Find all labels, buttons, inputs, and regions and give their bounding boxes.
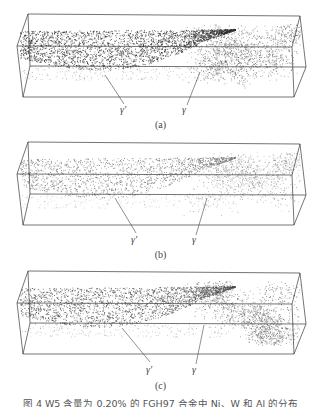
- gamma-label: γ: [182, 104, 186, 115]
- panel-b: γ′ γ (b): [0, 128, 321, 257]
- panel-a: γ′ γ (a): [0, 0, 321, 128]
- gamma-label: γ: [192, 234, 196, 245]
- panel-c: γ′ γ (c): [0, 257, 321, 394]
- atom-map-3d-box: [0, 128, 321, 257]
- atom-map-3d-box: [0, 257, 321, 394]
- figure-caption: 图 4 W5 含量为 0.20% 的 FGH97 合金中 Ni、W 和 Al 的…: [0, 396, 321, 407]
- panel-c-label: (c): [0, 380, 321, 391]
- gamma-label: γ: [192, 364, 196, 375]
- gamma-prime-label: γ′: [120, 104, 126, 115]
- gamma-prime-label: γ′: [131, 234, 137, 245]
- gamma-prime-label: γ′: [146, 364, 152, 375]
- atom-map-3d-box: [0, 0, 321, 128]
